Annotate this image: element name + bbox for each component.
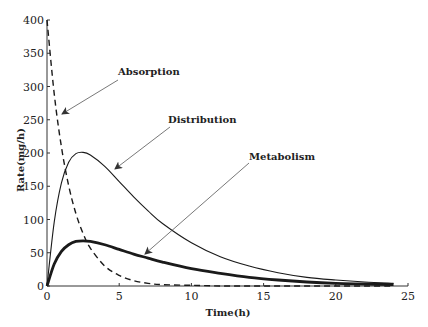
series-absorption-line bbox=[47, 20, 394, 286]
annotation-absorption: Absorption bbox=[62, 66, 180, 114]
x-tick-label: 20 bbox=[329, 290, 343, 303]
y-tick-labels: 0 50 100 150 200 250 300 350 400 bbox=[23, 14, 44, 293]
x-tick-label: 25 bbox=[401, 290, 415, 303]
arrow-icon bbox=[115, 127, 170, 169]
y-tick-label: 150 bbox=[23, 180, 44, 193]
y-tick-label: 50 bbox=[30, 247, 44, 260]
series-metabolism-line bbox=[47, 241, 394, 286]
y-tick-label: 300 bbox=[23, 81, 44, 94]
x-tick-label: 15 bbox=[257, 290, 271, 303]
y-tick-label: 400 bbox=[23, 14, 44, 27]
series-distribution-line bbox=[47, 152, 394, 286]
series-layer bbox=[47, 20, 394, 286]
annotation-label: Distribution bbox=[168, 114, 237, 125]
y-tick-label: 350 bbox=[23, 47, 44, 60]
x-tick-label: 5 bbox=[116, 290, 123, 303]
x-axis-label: Time(h) bbox=[206, 307, 251, 318]
arrow-icon bbox=[62, 80, 118, 114]
x-tick-label: 10 bbox=[184, 290, 198, 303]
y-axis-label: Rate(mg/h) bbox=[15, 128, 26, 192]
y-tick-label: 200 bbox=[23, 147, 44, 160]
chart-canvas: 0 50 100 150 200 250 300 350 400 0 5 10 … bbox=[0, 0, 428, 327]
x-tick-labels: 0 5 10 15 20 25 bbox=[44, 290, 416, 303]
y-tick-label: 250 bbox=[23, 114, 44, 127]
y-tick-label: 100 bbox=[23, 214, 44, 227]
annotation-distribution: Distribution bbox=[115, 114, 237, 169]
arrow-icon bbox=[145, 163, 249, 254]
annotation-label: Metabolism bbox=[249, 151, 315, 162]
annotation-label: Absorption bbox=[117, 66, 180, 77]
x-tick-label: 0 bbox=[44, 290, 51, 303]
annotation-metabolism: Metabolism bbox=[145, 151, 315, 254]
